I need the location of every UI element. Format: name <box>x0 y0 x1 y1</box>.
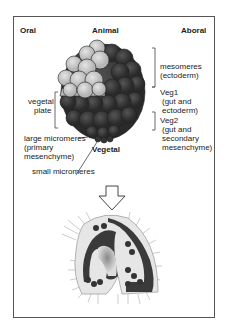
label-veg1: Veg1 <box>160 88 178 97</box>
label-mesomeres-sub: (ectoderm) <box>160 71 199 80</box>
header-oral: Oral <box>20 26 36 35</box>
label-vegetal-plate-1: vegetal <box>28 97 54 106</box>
label-veg2-sub3: mesenchyme) <box>162 143 212 152</box>
label-veg2-sub1: (gut and <box>162 125 191 134</box>
header-aboral: Aboral <box>181 26 206 35</box>
label-vegetal: Vegetal <box>92 145 120 154</box>
label-veg1-sub1: (gut and <box>162 97 191 106</box>
label-large-micromeres-1: large micromeres <box>24 134 86 143</box>
pluteus-larva <box>62 212 162 304</box>
label-small-micromeres: small micromeres <box>32 167 95 176</box>
label-veg2-sub2: secondary <box>162 134 199 143</box>
label-veg2: Veg2 <box>160 116 178 125</box>
label-vegetal-plate-2: plate <box>34 106 51 115</box>
label-large-micromeres-2: (primary <box>24 143 53 152</box>
down-arrow-icon <box>99 186 125 210</box>
header-animal: Animal <box>92 26 119 35</box>
label-veg1-sub2: ectoderm) <box>162 106 198 115</box>
blastula <box>58 40 145 143</box>
label-large-micromeres-3: mesenchyme) <box>24 152 74 161</box>
label-mesomeres: mesomeres <box>160 62 202 71</box>
